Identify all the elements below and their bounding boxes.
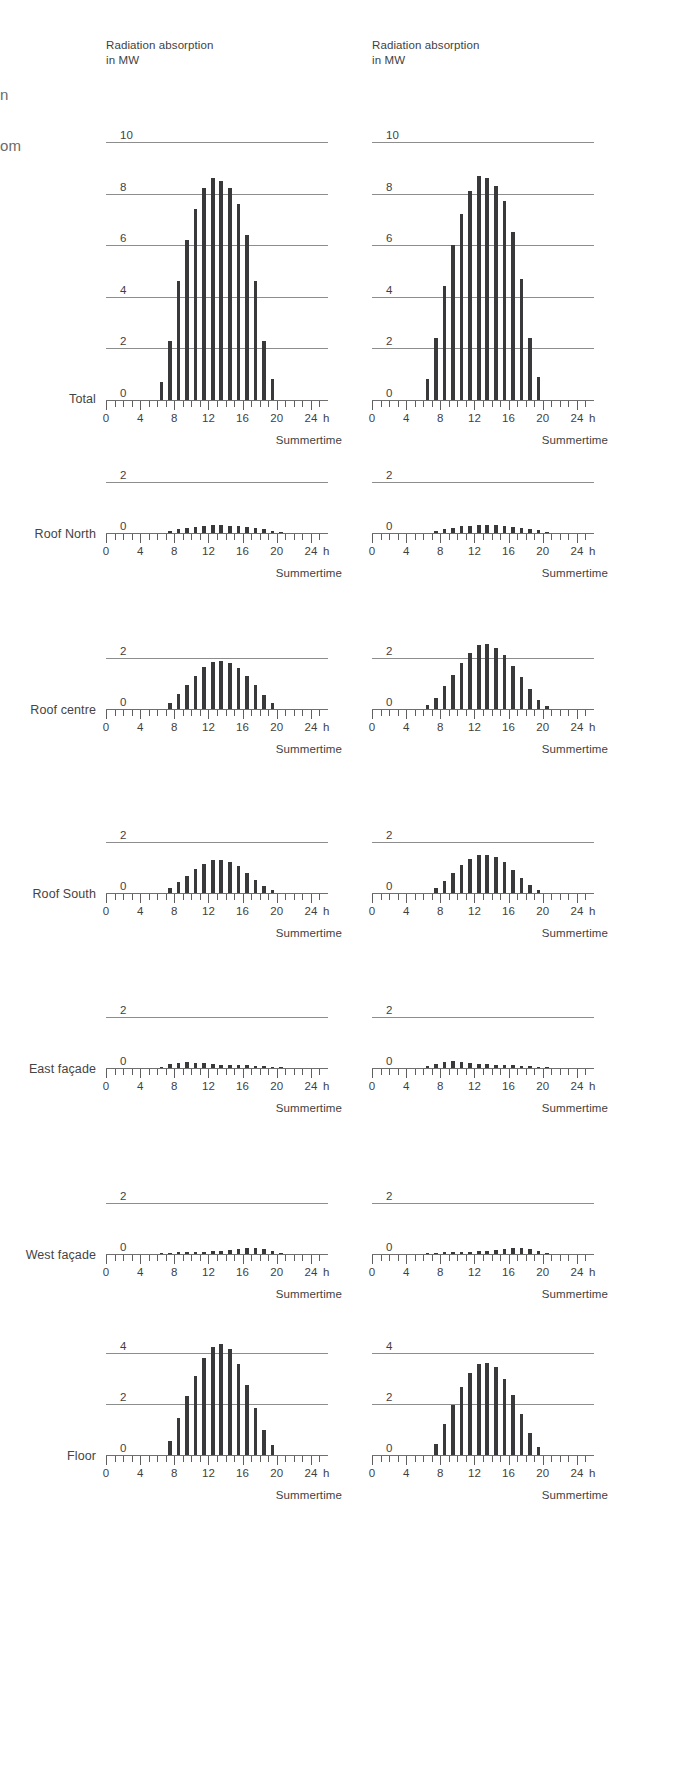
bar [460,1062,464,1068]
x-tick [389,1255,390,1261]
x-tick [415,894,416,900]
bar [537,530,541,533]
x-tick [483,534,484,540]
x-tick-label-0: 0 [103,1080,110,1092]
y-tick-label-2: 2 [386,1190,393,1203]
row-label-floor: Floor [0,1449,96,1463]
x-tick [260,534,261,540]
x-tick [517,1456,518,1462]
x-tick [483,894,484,900]
bar [468,1373,472,1455]
x-tick [140,401,141,410]
x-tick [208,401,209,410]
x-tick [132,401,133,407]
x-tick [389,534,390,540]
x-tick-label-0: 0 [369,905,376,917]
x-tick [174,401,175,410]
x-axis-caption: Summertime [372,567,608,579]
x-tick [157,1069,158,1075]
bar [177,1418,181,1455]
x-tick [517,401,518,407]
y-tick-label-0: 0 [386,520,393,533]
x-tick [200,1255,201,1261]
x-tick-label-16: 16 [502,905,515,917]
bar [254,685,258,709]
bar [185,1062,189,1068]
row-label-total: Total [0,392,96,406]
bar [494,525,498,533]
x-tick [534,534,535,540]
x-tick [457,534,458,540]
x-tick [285,534,286,540]
bar [426,379,430,400]
bar [443,881,447,893]
x-axis-caption: Summertime [106,1288,342,1300]
x-tick-label-24: 24 [304,1266,317,1278]
y-tick-label-2: 2 [386,1391,393,1404]
x-tick [415,1456,416,1462]
x-tick [234,710,235,716]
x-tick [251,894,252,900]
x-tick [166,710,167,716]
x-tick [432,894,433,900]
x-tick [398,401,399,407]
x-axis-caption: Summertime [372,743,608,755]
x-tick-label-24: 24 [304,1467,317,1479]
x-axis-unit: h [589,1467,595,1479]
x-tick [457,1069,458,1075]
x-tick-label-0: 0 [103,1266,110,1278]
x-tick [423,1069,424,1075]
x-tick [543,1069,544,1078]
x-tick [551,1255,552,1261]
x-tick [543,401,544,410]
x-tick [200,894,201,900]
x-tick [526,894,527,900]
bar [185,528,189,533]
bar [211,1347,215,1455]
x-axis-caption: Summertime [372,434,608,446]
y-tick-label-2: 2 [120,829,127,842]
x-tick [311,1255,312,1264]
bar [219,1065,223,1068]
gridline-2 [372,1203,594,1204]
bar [262,1430,266,1456]
x-tick-label-4: 4 [137,721,144,733]
gridline-2 [372,1017,594,1018]
x-tick [466,1456,467,1462]
x-axis-caption: Summertime [372,1102,608,1114]
bar [185,876,189,893]
x-tick [560,710,561,716]
x-tick [560,1255,561,1261]
bar [511,1065,515,1068]
x-tick [449,1069,450,1075]
x-tick [492,1255,493,1261]
x-tick [234,1456,235,1462]
bar [177,694,181,709]
bar [426,1253,430,1254]
bar [528,1066,532,1068]
x-tick [577,710,578,719]
bar [460,526,464,533]
x-tick [449,710,450,716]
x-tick-label-12: 12 [202,1266,215,1278]
bar [520,677,524,709]
x-tick [217,1069,218,1075]
x-tick [457,1456,458,1462]
x-tick-label-12: 12 [468,545,481,557]
bar [520,528,524,533]
x-tick-label-0: 0 [103,721,110,733]
bar [262,886,266,893]
y-tick-label-0: 0 [120,1442,127,1455]
bar [477,1064,481,1068]
bar [443,1062,447,1068]
x-tick [551,1456,552,1462]
x-tick [149,1069,150,1075]
bar [528,689,532,709]
bar [211,662,215,709]
x-tick [157,401,158,407]
x-tick [123,894,124,900]
x-tick [398,1456,399,1462]
x-tick [183,710,184,716]
x-tick [174,1255,175,1264]
x-tick [226,1456,227,1462]
